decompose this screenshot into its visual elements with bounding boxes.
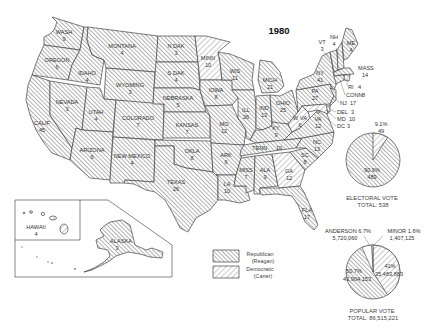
svg-text:MO: MO	[219, 121, 229, 127]
state-s-dak[interactable]: S DAK4	[154, 62, 200, 90]
svg-text:13: 13	[314, 146, 320, 152]
svg-text:RI: RI	[348, 84, 354, 90]
svg-text:UTAH: UTAH	[89, 109, 104, 115]
svg-text:ME: ME	[347, 40, 356, 46]
svg-text:DC: DC	[337, 123, 345, 129]
svg-text:26: 26	[173, 186, 179, 192]
svg-text:43,904,153: 43,904,153	[343, 276, 371, 282]
state-me[interactable]: ME4	[342, 28, 358, 60]
state-arizona[interactable]: ARIZONA6	[70, 128, 113, 180]
svg-text:10: 10	[349, 116, 355, 122]
svg-text:49: 49	[378, 128, 384, 134]
svg-text:TOTAL: 86,515,221: TOTAL: 86,515,221	[348, 315, 398, 321]
svg-text:NY: NY	[316, 70, 324, 76]
svg-text:WASH: WASH	[56, 29, 73, 35]
svg-text:10: 10	[205, 62, 211, 68]
svg-text:WYOMING: WYOMING	[116, 82, 144, 88]
legend-label-carter: (Carter)	[254, 273, 273, 279]
svg-text:8: 8	[190, 155, 193, 161]
svg-text:26: 26	[243, 114, 249, 120]
svg-text:11: 11	[232, 75, 238, 81]
svg-text:CALIF: CALIF	[34, 120, 50, 126]
svg-text:OKLA: OKLA	[185, 148, 200, 154]
svg-text:25: 25	[280, 107, 286, 113]
svg-text:7: 7	[244, 174, 247, 180]
svg-text:5,720,060: 5,720,060	[333, 235, 358, 241]
svg-text:OREGON: OREGON	[45, 57, 70, 63]
svg-text:MISS: MISS	[239, 167, 253, 173]
svg-text:3: 3	[115, 245, 118, 251]
svg-text:4: 4	[174, 77, 177, 83]
electoral-vote-pie: 9.1% 49 90.9% 489 ELECTORAL VOTE TOTAL: …	[346, 121, 400, 208]
state-n-dak[interactable]: N DAK3	[156, 36, 198, 62]
svg-text:TOTAL: 538: TOTAL: 538	[357, 202, 388, 208]
svg-text:TEXAS: TEXAS	[167, 179, 186, 185]
svg-text:9: 9	[274, 132, 277, 138]
svg-text:3: 3	[174, 50, 177, 56]
svg-text:S DAK: S DAK	[168, 70, 185, 76]
svg-text:MINOR 1.6%: MINOR 1.6%	[388, 228, 421, 234]
svg-text:10: 10	[276, 145, 282, 151]
svg-text:12: 12	[221, 128, 227, 134]
svg-text:17: 17	[304, 214, 310, 220]
svg-text:ARIZONA: ARIZONA	[80, 147, 105, 153]
svg-text:NEW MEXICO: NEW MEXICO	[114, 153, 151, 159]
state-ri[interactable]: RI4	[344, 75, 361, 90]
svg-text:NEBRASKA: NEBRASKA	[163, 95, 194, 101]
svg-text:6: 6	[298, 122, 301, 128]
svg-text:ELECTORAL VOTE: ELECTORAL VOTE	[346, 195, 398, 201]
svg-text:4: 4	[349, 47, 352, 53]
state-new-mexico[interactable]: NEW MEXICO4	[110, 137, 155, 183]
svg-text:ILL: ILL	[242, 107, 250, 113]
svg-text:489: 489	[367, 174, 376, 180]
legend-swatch-republican	[213, 250, 239, 262]
svg-text:7: 7	[136, 122, 139, 128]
election-map-1980: 1980 WASH9 OREGON6 CALIF45 IDAHO4 NEVADA…	[0, 0, 434, 333]
svg-text:MICH: MICH	[263, 77, 277, 83]
svg-text:10: 10	[224, 188, 230, 194]
state-wyoming[interactable]: WYOMING3	[104, 68, 155, 104]
svg-text:6: 6	[55, 64, 58, 70]
state-colorado[interactable]: COLORADO7	[113, 100, 164, 140]
svg-text:4: 4	[120, 50, 123, 56]
svg-text:NJ: NJ	[340, 100, 347, 106]
inset-alaska-hawaii	[15, 200, 172, 277]
svg-text:41%: 41%	[384, 263, 395, 269]
svg-text:ANDERSON 6.7%: ANDERSON 6.7%	[325, 228, 371, 234]
svg-text:3: 3	[128, 89, 131, 95]
svg-text:ARK: ARK	[220, 152, 232, 158]
svg-text:DEL: DEL	[337, 109, 348, 115]
svg-text:NH: NH	[330, 34, 338, 40]
svg-text:50.7%: 50.7%	[346, 268, 362, 274]
svg-text:GA: GA	[285, 168, 293, 174]
legend: Republican (Reagan) Democratic (Carter)	[213, 250, 274, 279]
svg-text:3: 3	[65, 106, 68, 112]
svg-text:W VA: W VA	[293, 115, 307, 121]
state-wash[interactable]: WASH9	[44, 17, 84, 50]
svg-text:4: 4	[34, 231, 37, 237]
svg-text:KY: KY	[272, 125, 280, 131]
svg-text:12: 12	[315, 123, 321, 129]
svg-text:IDAHO: IDAHO	[78, 70, 96, 76]
svg-text:6: 6	[90, 154, 93, 160]
svg-text:CONN: CONN	[346, 92, 362, 98]
svg-text:OHIO: OHIO	[276, 100, 291, 106]
svg-text:21: 21	[267, 84, 273, 90]
state-fla[interactable]: FLA17	[260, 186, 318, 230]
state-kansas[interactable]: KANSAS7	[163, 112, 210, 138]
svg-text:NEVADA: NEVADA	[56, 99, 79, 105]
state-mich[interactable]: MICH21	[258, 60, 284, 93]
legend-label-reagan: (Reagan)	[252, 258, 275, 264]
svg-text:ALASKA: ALASKA	[110, 238, 132, 244]
svg-text:14: 14	[362, 72, 368, 78]
state-ind[interactable]: IND13	[256, 95, 272, 130]
svg-text:IOWA: IOWA	[209, 87, 224, 93]
svg-text:VA: VA	[314, 116, 321, 122]
svg-text:1,407,125: 1,407,125	[390, 235, 415, 241]
svg-text:WIS: WIS	[230, 68, 241, 74]
svg-text:8: 8	[303, 159, 306, 165]
svg-text:FLA: FLA	[302, 207, 313, 213]
svg-text:13: 13	[261, 112, 267, 118]
svg-text:3: 3	[347, 123, 350, 129]
svg-text:LA: LA	[224, 181, 231, 187]
